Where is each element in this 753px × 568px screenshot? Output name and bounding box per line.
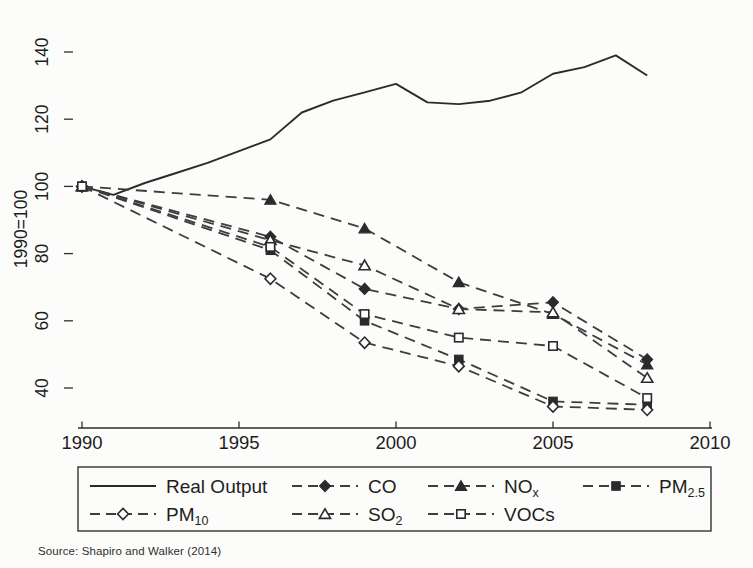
square-open-marker-icon bbox=[455, 333, 463, 341]
legend: Real OutputCONOxPM2.5PM10SO2VOCs bbox=[78, 467, 711, 531]
y-tick-label: 140 bbox=[32, 37, 52, 66]
square-open-marker-icon bbox=[457, 510, 465, 518]
x-tick-label: 1995 bbox=[218, 432, 259, 453]
square-open-marker-icon bbox=[78, 182, 86, 190]
x-axis: 19901995200020052010 bbox=[61, 422, 730, 454]
square-open-marker-icon bbox=[643, 394, 651, 402]
x-tick-label: 1990 bbox=[61, 432, 102, 453]
square-filled-marker-icon bbox=[612, 482, 620, 490]
legend-label: PM2.5 bbox=[659, 476, 705, 501]
y-tick-label: 60 bbox=[32, 311, 52, 331]
legend-label: Real Output bbox=[166, 476, 268, 497]
pollution-output-trends-chart: 4060801001201401990=10019901995200020052… bbox=[0, 0, 753, 568]
legend-item-co: CO bbox=[292, 476, 397, 497]
source-note: Source: Shapiro and Walker (2014) bbox=[38, 545, 221, 557]
x-tick-label: 2010 bbox=[689, 432, 730, 453]
legend-label: PM10 bbox=[166, 504, 208, 529]
y-tick-label: 100 bbox=[32, 172, 52, 201]
scanned-figure-page: 4060801001201401990=10019901995200020052… bbox=[0, 0, 753, 568]
series-pm25 bbox=[78, 182, 652, 409]
legend-label: NOx bbox=[504, 476, 540, 501]
diamond-open-marker-icon bbox=[118, 508, 129, 519]
legend-item-nox: NOx bbox=[428, 476, 540, 501]
square-open-marker-icon bbox=[360, 310, 368, 318]
y-tick-label: 120 bbox=[32, 104, 52, 133]
legend-item-pm25: PM2.5 bbox=[583, 476, 705, 501]
series-realoutput bbox=[82, 55, 647, 194]
legend-item-realoutput: Real Output bbox=[90, 476, 268, 497]
diamond-filled-marker-icon bbox=[359, 283, 370, 294]
triangle-filled-marker-icon bbox=[359, 223, 370, 233]
diamond-open-marker-icon bbox=[359, 337, 370, 348]
square-open-marker-icon bbox=[549, 342, 557, 350]
series-line bbox=[82, 55, 647, 194]
series-so2 bbox=[76, 181, 652, 382]
legend-label: SO2 bbox=[368, 504, 402, 529]
y-tick-label: 80 bbox=[32, 244, 52, 264]
x-tick-label: 2000 bbox=[375, 432, 416, 453]
square-open-marker-icon bbox=[266, 243, 274, 251]
series-line bbox=[82, 186, 647, 409]
y-axis-title: 1990=100 bbox=[11, 190, 31, 269]
triangle-filled-marker-icon bbox=[453, 277, 464, 287]
legend-label: VOCs bbox=[504, 504, 555, 525]
y-axis: 4060801001201401990=100 bbox=[11, 37, 73, 398]
y-tick-label: 40 bbox=[32, 378, 52, 398]
legend-item-pm10: PM10 bbox=[90, 504, 208, 529]
x-tick-label: 2005 bbox=[532, 432, 573, 453]
legend-item-vocs: VOCs bbox=[428, 504, 555, 525]
diamond-open-marker-icon bbox=[265, 273, 276, 284]
legend-item-so2: SO2 bbox=[292, 504, 402, 529]
series-pm10 bbox=[77, 181, 653, 416]
legend-label: CO bbox=[368, 476, 397, 497]
series-line bbox=[82, 186, 647, 359]
series-line bbox=[82, 186, 647, 404]
diamond-filled-marker-icon bbox=[320, 480, 331, 491]
